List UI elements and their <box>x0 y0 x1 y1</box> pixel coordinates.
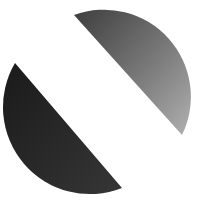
split-circle-figure <box>0 0 197 200</box>
upper-segment <box>74 10 191 135</box>
lower-segment <box>3 63 122 194</box>
